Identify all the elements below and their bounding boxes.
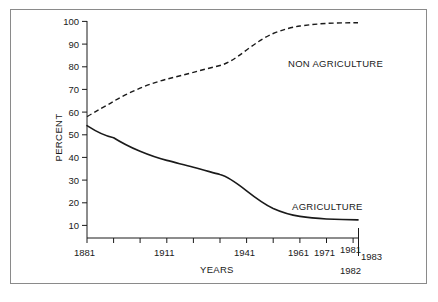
x-tick-label-1971: 1971 — [314, 248, 335, 258]
y-tick-label-70: 70 — [55, 85, 79, 95]
y-tick-label-20: 20 — [55, 198, 79, 208]
y-tick-label-90: 90 — [55, 40, 79, 50]
series-annotation-agriculture: AGRICULTURE — [292, 201, 363, 212]
x-tick-label-1982: 1982 — [340, 266, 361, 276]
y-tick-marks — [82, 21, 87, 225]
x-tick-label-1961: 1961 — [288, 248, 309, 258]
x-tick-label-1941: 1941 — [234, 248, 255, 258]
y-axis-title: PERCENT — [53, 108, 64, 168]
x-tick-label-1881: 1881 — [74, 248, 95, 258]
x-tick-label-1981: 1981 — [340, 245, 361, 255]
series-line-non-agriculture — [87, 23, 358, 117]
x-axis-title: YEARS — [200, 264, 234, 275]
y-tick-label-10: 10 — [55, 221, 79, 231]
y-tick-label-80: 80 — [55, 62, 79, 72]
y-tick-label-100: 100 — [55, 17, 79, 27]
x-tick-label-1911: 1911 — [154, 248, 174, 258]
x-tick-label-1983: 1983 — [361, 252, 382, 262]
x-tick-marks — [87, 238, 353, 243]
y-tick-label-30: 30 — [55, 176, 79, 186]
series-annotation-non-agriculture: NON AGRICULTURE — [288, 58, 383, 69]
chart-screenshot: 100 90 80 70 60 50 40 30 20 10 PERCENT 1… — [0, 0, 438, 302]
